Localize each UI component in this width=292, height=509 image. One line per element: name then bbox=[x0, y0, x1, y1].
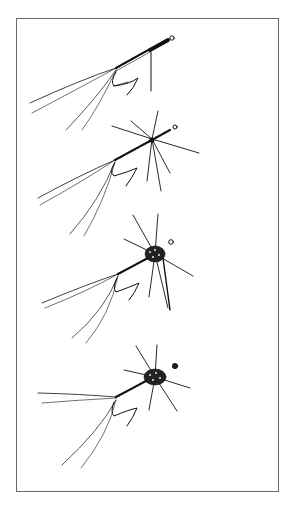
fly-stage-3 bbox=[42, 214, 193, 343]
fly-stage-4 bbox=[38, 345, 190, 468]
fly-stage-2 bbox=[38, 111, 199, 236]
fly-tying-illustration bbox=[0, 0, 292, 509]
fly-stage-1 bbox=[30, 36, 174, 130]
